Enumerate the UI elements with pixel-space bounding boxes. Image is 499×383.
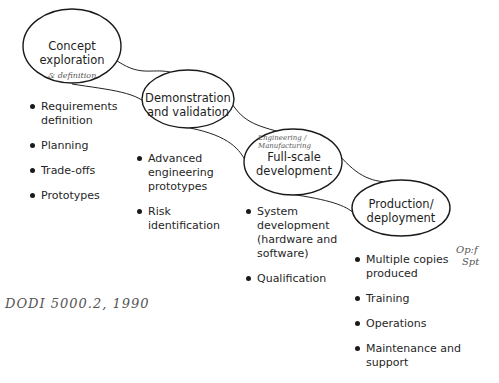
- production-bullets: Multiple copies produced Training Operat…: [355, 253, 465, 381]
- phase-label-line: and validation: [144, 105, 232, 119]
- list-item: Requirements definition: [30, 100, 130, 128]
- handwritten-side-note: Op:f Spt: [456, 244, 479, 268]
- phase-demonstration-label: Demonstration and validation: [144, 91, 232, 119]
- phase-concept-label: Concept exploration: [30, 39, 114, 67]
- side-note-line: Op:f: [456, 244, 479, 256]
- list-item: Prototypes: [30, 189, 130, 203]
- list-item: Risk identification: [137, 205, 237, 233]
- phase-label-line: exploration: [30, 53, 114, 67]
- phase-label-line: Full-scale: [252, 150, 336, 164]
- list-item: Training: [355, 292, 465, 306]
- handwritten-annotation-definition: & definition: [48, 71, 96, 80]
- demonstration-bullets: Advanced engineering prototypes Risk ide…: [137, 152, 237, 244]
- list-item: Planning: [30, 139, 130, 153]
- fullscale-bullets: System development (hardware and softwar…: [246, 205, 346, 297]
- list-item: Advanced engineering prototypes: [137, 152, 237, 194]
- list-item: Trade-offs: [30, 164, 130, 178]
- handwritten-reference: DODI 5000.2, 1990: [5, 296, 150, 311]
- handwritten-annotation-engineering: Engineering / Manufacturing: [258, 134, 338, 150]
- phase-label-line: Concept: [30, 39, 114, 53]
- concept-bullets: Requirements definition Planning Trade-o…: [30, 100, 130, 214]
- phase-fullscale-label: Full-scale development: [252, 150, 336, 178]
- list-item: System development (hardware and softwar…: [246, 205, 346, 261]
- phase-label-line: Production/: [357, 197, 445, 211]
- phase-label-line: Demonstration: [144, 91, 232, 105]
- phase-label-line: deployment: [357, 211, 445, 225]
- phase-label-line: development: [252, 164, 336, 178]
- list-item: Operations: [355, 317, 465, 331]
- side-note-line: Spt: [456, 256, 479, 268]
- list-item: Qualification: [246, 272, 346, 286]
- phase-production-label: Production/ deployment: [357, 197, 445, 225]
- list-item: Multiple copies produced: [355, 253, 465, 281]
- list-item: Maintenance and support: [355, 342, 465, 370]
